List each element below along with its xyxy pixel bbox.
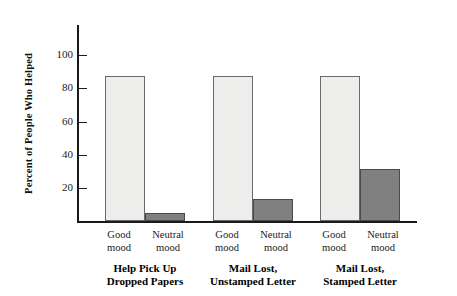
bar-mail-stamped-good-mood xyxy=(320,76,360,221)
y-tick-mark-60 xyxy=(79,122,87,123)
group-label-mail-unstamped: Mail Lost, Unstamped Letter xyxy=(190,262,316,288)
mood-label-group3-neutral: Neutral mood xyxy=(357,229,409,254)
y-tick-label-80: 80 xyxy=(45,82,73,93)
y-tick-label-60: 60 xyxy=(45,116,73,127)
bar-mail-stamped-neutral-mood xyxy=(360,169,400,221)
bar-help-pick-up-good-mood xyxy=(105,76,145,221)
group-label-mail-stamped: Mail Lost, Stamped Letter xyxy=(300,262,420,288)
mood-label-group1-neutral: Neutral mood xyxy=(142,229,194,254)
mood-label-group2-neutral: Neutral mood xyxy=(250,229,302,254)
y-tick-group-20: 20 xyxy=(0,188,73,189)
y-tick-mark-80 xyxy=(79,88,87,89)
y-tick-group-100: 100 xyxy=(0,55,73,56)
y-tick-mark-100 xyxy=(79,55,87,56)
bar-mail-unstamped-neutral-mood xyxy=(253,199,293,221)
y-tick-label-20: 20 xyxy=(45,182,73,193)
x-axis-line xyxy=(77,221,417,223)
y-tick-mark-40 xyxy=(79,155,87,156)
bar-mail-unstamped-good-mood xyxy=(213,76,253,221)
y-tick-group-40: 40 xyxy=(0,155,73,156)
mood-label-group3-good: Good mood xyxy=(308,229,360,254)
y-axis-title: Percent of People Who Helped xyxy=(23,34,34,214)
y-tick-group-80: 80 xyxy=(0,88,73,89)
y-tick-label-100: 100 xyxy=(45,49,73,60)
bar-help-pick-up-neutral-mood xyxy=(145,213,185,221)
y-tick-mark-20 xyxy=(79,188,87,189)
y-tick-group-60: 60 xyxy=(0,122,73,123)
mood-label-group1-good: Good mood xyxy=(93,229,145,254)
y-tick-label-40: 40 xyxy=(45,149,73,160)
group-label-help-pick-up: Help Pick Up Dropped Papers xyxy=(85,262,205,288)
mood-label-group2-good: Good mood xyxy=(201,229,253,254)
bar-chart: Percent of People Who Helped 100 80 60 4… xyxy=(0,0,457,296)
